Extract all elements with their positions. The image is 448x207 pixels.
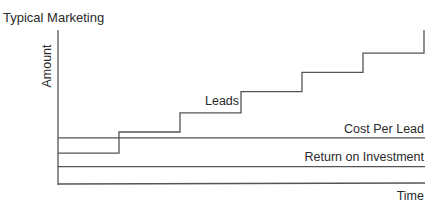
chart: Typical Marketing Amount Time Leads Cost… <box>0 0 448 207</box>
series-layer <box>58 30 425 167</box>
series-label-cost-per-lead: Cost Per Lead <box>344 122 424 136</box>
series-label-roi: Return on Investment <box>304 150 424 164</box>
x-axis <box>58 183 425 184</box>
x-axis-label: Time <box>397 189 424 203</box>
y-axis-label: Amount <box>40 44 54 88</box>
series-label-leads: Leads <box>205 94 239 108</box>
chart-title: Typical Marketing <box>3 10 104 25</box>
